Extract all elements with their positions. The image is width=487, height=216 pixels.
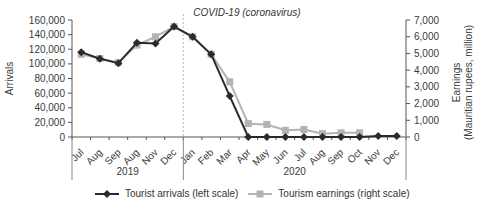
x-axis-month-label: Dec <box>158 147 178 167</box>
left-axis-tick-label: 20,000 <box>34 117 65 128</box>
x-axis-month-label: Nov <box>140 147 160 167</box>
arrivals-series-marker <box>281 133 289 141</box>
arrivals-series-marker <box>244 133 252 141</box>
arrivals-series-marker <box>226 92 234 100</box>
earnings-series-line <box>81 27 359 134</box>
right-axis-tick-label: 7,000 <box>414 15 439 26</box>
left-axis-title: Arrivals <box>4 62 15 95</box>
x-axis-month-label: Aug <box>121 147 141 167</box>
left-axis-tick-label: 0 <box>59 132 65 143</box>
legend-label-earnings: Tourism earnings (right scale) <box>278 188 409 199</box>
left-axis-tick-label: 120,000 <box>29 44 66 55</box>
legend: Tourist arrivals (left scale) Tourism ea… <box>95 188 420 199</box>
arrivals-series-marker <box>393 132 401 140</box>
left-axis-tick-label: 80,000 <box>34 73 65 84</box>
earnings-series-marker <box>300 126 307 133</box>
right-axis-tick-label: 5,000 <box>414 48 439 59</box>
earnings-series-marker <box>282 127 289 134</box>
diamond-line-icon <box>95 189 119 199</box>
legend-item-arrivals: Tourist arrivals (left scale) <box>95 188 238 199</box>
x-axis-month-label: Mar <box>214 146 234 166</box>
covid-annotation: COVID-19 (coronavirus) <box>193 7 300 18</box>
legend-item-earnings: Tourism earnings (right scale) <box>248 188 409 199</box>
earnings-series-marker <box>245 120 252 127</box>
left-axis-tick-label: 160,000 <box>29 15 66 26</box>
right-axis-tick-label: 0 <box>414 132 420 143</box>
x-axis-month-label: Jan <box>178 147 197 166</box>
x-axis-month-label: Nov <box>362 147 382 167</box>
left-axis-tick-label: 40,000 <box>34 102 65 113</box>
left-axis-tick-label: 60,000 <box>34 88 65 99</box>
x-axis-month-label: Sep <box>102 146 123 167</box>
earnings-series-marker <box>226 78 233 85</box>
x-axis-month-label: May <box>250 147 271 168</box>
arrivals-series-line <box>81 27 396 137</box>
earnings-series-marker <box>152 33 159 40</box>
x-axis-year-label: 2020 <box>284 166 307 177</box>
x-axis-month-label: Aug <box>307 147 327 167</box>
earnings-series-marker <box>263 121 270 128</box>
x-axis-month-label: Aug <box>84 147 104 167</box>
arrivals-series-marker <box>374 132 382 140</box>
arrivals-series-marker <box>300 133 308 141</box>
x-axis-month-label: Apr <box>234 146 253 165</box>
arrivals-series-marker <box>263 133 271 141</box>
right-axis-tick-label: 3,000 <box>414 81 439 92</box>
legend-label-arrivals: Tourist arrivals (left scale) <box>125 188 238 199</box>
dual-axis-line-chart: 020,00040,00060,00080,000100,000120,0001… <box>0 0 487 216</box>
right-axis-title: Earnings <box>451 63 462 102</box>
x-axis-month-label: Jun <box>271 147 290 166</box>
x-axis-month-label: Jul <box>69 147 86 164</box>
right-axis-tick-label: 1,000 <box>414 115 439 126</box>
x-axis-month-label: Dec <box>381 147 401 167</box>
x-axis-month-label: Jul <box>292 147 309 164</box>
right-axis-title: (Mauritian rupees, million) <box>463 25 474 140</box>
left-axis-tick-label: 100,000 <box>29 58 66 69</box>
x-axis-month-label: Oct <box>345 146 364 165</box>
right-axis-tick-label: 2,000 <box>414 98 439 109</box>
x-axis-month-label: Feb <box>196 146 216 166</box>
square-line-icon <box>248 189 272 199</box>
x-axis-year-label: 2019 <box>117 166 140 177</box>
x-axis-month-label: Sep <box>325 146 346 167</box>
left-axis-tick-label: 140,000 <box>29 29 66 40</box>
right-axis-tick-label: 4,000 <box>414 65 439 76</box>
right-axis-tick-label: 6,000 <box>414 31 439 42</box>
